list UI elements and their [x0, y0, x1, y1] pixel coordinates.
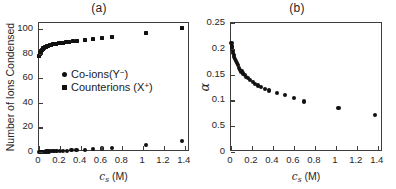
- y-axis-tick-label: 0: [194, 146, 225, 156]
- x-axis-tick: [81, 146, 82, 150]
- x-axis-tick-label: 0.4: [73, 155, 86, 165]
- panel-b-plot-frame: [230, 22, 382, 151]
- x-axis-tick-label: 1.2: [349, 155, 362, 165]
- x-axis-tick: [273, 146, 274, 150]
- data-point: [267, 88, 271, 92]
- legend-counterions-paren: ): [149, 81, 153, 93]
- x-axis-tick-label: 0: [35, 155, 40, 165]
- y-axis-tick: [231, 75, 235, 76]
- y-axis-tick: [39, 127, 43, 128]
- panel-b-plot-area: [231, 23, 381, 150]
- data-point: [74, 148, 78, 152]
- data-point: [275, 91, 279, 95]
- data-point: [91, 147, 95, 151]
- x-axis-tick-label: 1.2: [156, 155, 169, 165]
- legend-item-co-ions: Co-ions(Y−): [62, 68, 153, 81]
- x-axis-tick-label: 1: [139, 155, 144, 165]
- x-axis-tick-label: 0.2: [52, 155, 65, 165]
- data-point: [373, 113, 377, 117]
- x-axis-tick: [60, 146, 61, 150]
- x-axis-tick: [185, 146, 186, 150]
- y-axis-tick-label: 0.2: [194, 43, 225, 53]
- x-axis-tick: [294, 146, 295, 150]
- legend-circle-marker-icon: [62, 72, 67, 77]
- data-point: [83, 148, 87, 152]
- panel-a-xaxis-title: cs (M): [99, 170, 127, 184]
- y-axis-tick: [231, 100, 235, 101]
- data-point: [302, 99, 306, 103]
- x-axis-tick: [143, 146, 144, 150]
- panel-b-title: (b): [198, 1, 396, 15]
- x-axis-tick: [378, 146, 379, 150]
- data-point: [144, 31, 148, 35]
- panel-a-title: (a): [0, 1, 198, 15]
- legend-label-co-ions: Co-ions(Y−): [71, 69, 128, 80]
- y-axis-tick-label: 0.5: [194, 120, 225, 130]
- data-point: [100, 36, 104, 40]
- panel-b: (b) 00.50.10.150.20.2500.20.40.60.811.21…: [198, 0, 396, 189]
- y-axis-tick: [39, 103, 43, 104]
- panel-a-xaxis-unit: (M): [109, 170, 128, 182]
- x-axis-tick-label: 0.6: [94, 155, 107, 165]
- y-axis-tick: [39, 54, 43, 55]
- x-axis-tick: [336, 146, 337, 150]
- legend-item-counterions: Counterions (X+): [62, 81, 153, 94]
- x-axis-tick-label: 0: [227, 155, 232, 165]
- y-axis-tick-label: 0.25: [194, 17, 225, 27]
- x-axis-tick-label: 1: [332, 155, 337, 165]
- data-point: [75, 39, 79, 43]
- y-axis-tick-label: 0.15: [194, 69, 225, 79]
- panel-b-xaxis-title: cs (M): [292, 170, 320, 184]
- x-axis-tick-label: 0.8: [307, 155, 320, 165]
- panel-a-legend: Co-ions(Y−) Counterions (X+): [62, 68, 153, 94]
- x-axis-tick-label: 0.6: [286, 155, 299, 165]
- figure-root: (a) 02040608010000.20.40.60.811.21.4 cs …: [0, 0, 396, 189]
- data-point: [110, 146, 114, 150]
- legend-co-ions-text: Co-ions(Y: [71, 68, 120, 80]
- y-axis-tick: [39, 29, 43, 30]
- x-axis-tick-label: 0.2: [244, 155, 257, 165]
- panel-a: (a) 02040608010000.20.40.60.811.21.4 cs …: [0, 0, 198, 189]
- legend-square-marker-icon: [62, 85, 67, 90]
- x-axis-tick-label: 0.8: [115, 155, 128, 165]
- x-axis-tick: [231, 146, 232, 150]
- data-point: [69, 148, 73, 152]
- x-axis-tick: [315, 146, 316, 150]
- x-axis-tick-label: 1.4: [177, 155, 190, 165]
- data-point: [283, 93, 287, 97]
- y-axis-tick-label: 0.1: [194, 95, 225, 105]
- y-axis-tick: [231, 49, 235, 50]
- x-axis-tick-label: 1.4: [370, 155, 383, 165]
- x-axis-tick: [252, 146, 253, 150]
- data-point: [180, 26, 184, 30]
- y-axis-tick: [39, 78, 43, 79]
- y-axis-tick: [231, 23, 235, 24]
- data-point: [91, 37, 95, 41]
- x-axis-tick: [39, 146, 40, 150]
- data-point: [292, 96, 296, 100]
- panel-b-xaxis-unit: (M): [302, 170, 321, 182]
- x-axis-tick-label: 0.4: [265, 155, 278, 165]
- panel-a-yaxis-title: Number of Ions Condensed: [4, 22, 16, 150]
- y-axis-tick: [231, 152, 235, 153]
- legend-counterions-text: Counterions (X: [71, 81, 144, 93]
- data-point: [110, 35, 114, 39]
- x-axis-tick: [122, 146, 123, 150]
- panel-b-yaxis-title: α: [197, 82, 212, 91]
- data-point: [336, 106, 340, 110]
- legend-label-counterions: Counterions (X+): [71, 82, 153, 93]
- x-axis-tick: [101, 146, 102, 150]
- x-axis-tick: [357, 146, 358, 150]
- y-axis-tick: [231, 126, 235, 127]
- data-point: [180, 139, 184, 143]
- y-axis-tick: [39, 152, 43, 153]
- x-axis-tick: [164, 146, 165, 150]
- legend-co-ions-paren: ): [125, 68, 129, 80]
- data-point: [83, 38, 87, 42]
